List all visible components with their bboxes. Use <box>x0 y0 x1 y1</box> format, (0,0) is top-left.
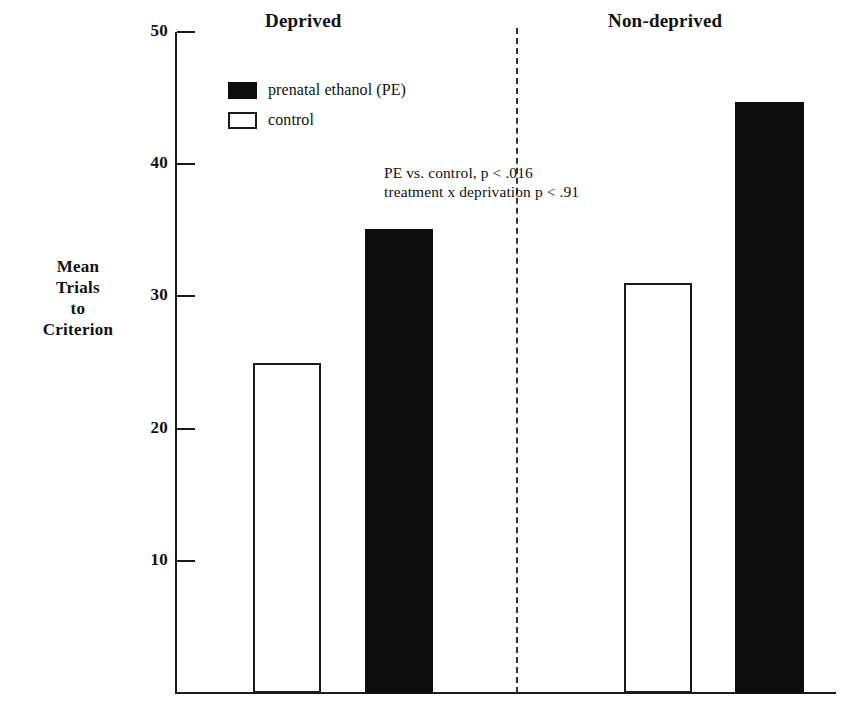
legend-swatch-open-icon <box>228 112 257 129</box>
group-title-non-deprived: Non-deprived <box>608 10 722 32</box>
y-axis-title-line-1: Mean <box>18 256 138 277</box>
y-tick-mark-40 <box>177 163 195 165</box>
y-tick-label-40: 40 <box>124 153 168 173</box>
y-axis-title-line-3: to <box>18 298 138 319</box>
y-tick-mark-50 <box>177 31 195 33</box>
y-tick-mark-10 <box>177 560 195 562</box>
group-title-deprived: Deprived <box>265 10 342 32</box>
bar-deprived-control <box>253 363 321 694</box>
legend-item-control: control <box>228 108 406 132</box>
bar-non-deprived-control <box>624 283 692 693</box>
legend-swatch-filled-icon <box>228 82 257 99</box>
legend-label-prenatal-ethanol: prenatal ethanol (PE) <box>268 81 406 99</box>
annotation-line-1: PE vs. control, p < .016 <box>384 163 579 182</box>
group-divider-dashed-line <box>516 28 518 693</box>
legend: prenatal ethanol (PE) control <box>228 78 406 138</box>
y-axis-line <box>175 32 177 694</box>
legend-label-control: control <box>268 111 314 129</box>
y-tick-label-50: 50 <box>124 21 168 41</box>
y-tick-label-30: 30 <box>124 285 168 305</box>
bar-non-deprived-prenatal-ethanol <box>735 102 804 693</box>
y-axis-title-line-4: Criterion <box>18 319 138 340</box>
annotation-line-2: treatment x deprivation p < .91 <box>384 182 579 201</box>
y-axis-title-line-2: Trials <box>18 277 138 298</box>
legend-item-prenatal-ethanol: prenatal ethanol (PE) <box>228 78 406 102</box>
bar-deprived-prenatal-ethanol <box>365 229 433 693</box>
y-tick-mark-30 <box>177 295 195 297</box>
y-tick-label-20: 20 <box>124 418 168 438</box>
y-tick-mark-20 <box>177 428 195 430</box>
y-axis-title: Mean Trials to Criterion <box>18 256 138 340</box>
y-tick-label-10: 10 <box>124 550 168 570</box>
bar-chart-figure: Deprived Non-deprived Mean Trials to Cri… <box>0 0 864 708</box>
statistics-annotation: PE vs. control, p < .016 treatment x dep… <box>384 163 579 201</box>
